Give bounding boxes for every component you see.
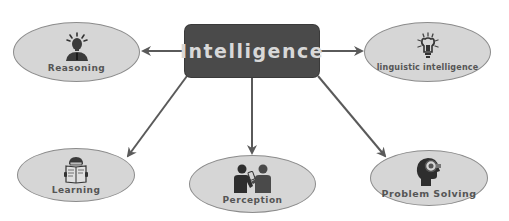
- central-topic-box: Intelligence: [185, 25, 319, 77]
- intelligence-mind-map: Intelligence Reasoning: [0, 0, 509, 221]
- node-label-reasoning: Reasoning: [48, 63, 106, 73]
- node-perception: Perception: [189, 155, 316, 213]
- arrow-to-learning: [128, 76, 187, 156]
- central-topic-title: Intelligence: [180, 40, 324, 62]
- node-learning: Learning: [17, 148, 135, 202]
- idea-person-icon: [62, 32, 92, 62]
- two-people-talking-icon: [233, 164, 273, 194]
- head-gear-icon: [414, 157, 444, 187]
- node-reasoning: Reasoning: [13, 22, 140, 82]
- node-label-perception: Perception: [223, 195, 283, 205]
- node-label-learning: Learning: [52, 185, 101, 195]
- lightbulb-icon: [414, 32, 442, 62]
- arrow-to-problem-solving: [318, 76, 385, 156]
- node-label-problem-solving: Problem Solving: [381, 188, 476, 199]
- node-label-linguistic-intelligence: linguistic intelligence: [377, 63, 479, 72]
- reading-person-icon: [64, 156, 88, 184]
- node-problem-solving: Problem Solving: [370, 150, 488, 206]
- node-linguistic-intelligence: linguistic intelligence: [364, 22, 491, 82]
